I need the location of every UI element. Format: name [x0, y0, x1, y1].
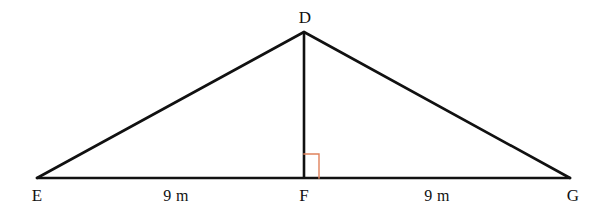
right-angle-marker-icon	[304, 154, 319, 178]
vertex-label-D: D	[299, 9, 311, 26]
side-segment-DG	[304, 32, 570, 178]
length-label-FG: 9 m	[424, 188, 449, 204]
vertex-label-E: E	[32, 187, 42, 204]
vertex-label-G: G	[567, 187, 579, 204]
length-label-EF: 9 m	[163, 188, 188, 204]
triangle-diagram-canvas	[0, 0, 612, 213]
geometry-figure: D E F G 9 m 9 m	[0, 0, 612, 213]
side-segment-DE	[37, 32, 304, 178]
vertex-label-F: F	[299, 187, 308, 204]
